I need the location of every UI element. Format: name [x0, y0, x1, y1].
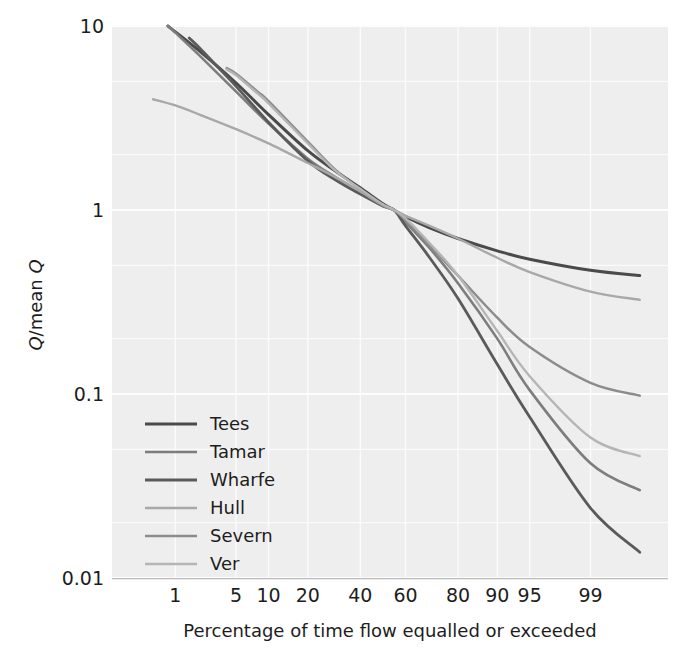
legend-label-tamar: Tamar — [209, 441, 266, 462]
x-tick-label: 40 — [348, 584, 372, 606]
x-tick-label: 10 — [256, 584, 280, 606]
x-tick-label: 99 — [578, 584, 602, 606]
y-tick-label: 10 — [80, 15, 104, 37]
x-axis-title: Percentage of time flow equalled or exce… — [183, 620, 597, 641]
legend-label-hull: Hull — [210, 497, 245, 518]
y-axis-title-meanq: Q — [25, 259, 46, 273]
flow-duration-curve-chart: 1010.10.01 151020406080909599 Q/mean Q P… — [0, 0, 694, 668]
x-tick-label: 80 — [446, 584, 470, 606]
x-tick-label: 90 — [485, 584, 509, 606]
y-tick-label: 0.1 — [74, 383, 104, 405]
y-axis-title-q: Q — [25, 336, 46, 350]
figure-container: 1010.10.01 151020406080909599 Q/mean Q P… — [0, 0, 694, 668]
legend-label-tees: Tees — [209, 413, 249, 434]
y-tick-label: 1 — [92, 199, 104, 221]
y-axis-title: Q/mean Q — [25, 259, 46, 350]
y-axis-title-mean: mean — [25, 274, 46, 331]
x-tick-label: 95 — [518, 584, 542, 606]
legend-label-severn: Severn — [210, 525, 273, 546]
x-tick-label: 1 — [169, 584, 181, 606]
legend-label-wharfe: Wharfe — [210, 469, 275, 490]
y-tick-label: 0.01 — [62, 567, 104, 589]
x-tick-label: 60 — [393, 584, 417, 606]
plot-area-background — [112, 26, 668, 578]
x-tick-label: 20 — [296, 584, 320, 606]
x-tick-label: 5 — [230, 584, 242, 606]
svg-text:Q/mean Q: Q/mean Q — [25, 259, 46, 350]
legend-label-ver: Ver — [210, 553, 240, 574]
